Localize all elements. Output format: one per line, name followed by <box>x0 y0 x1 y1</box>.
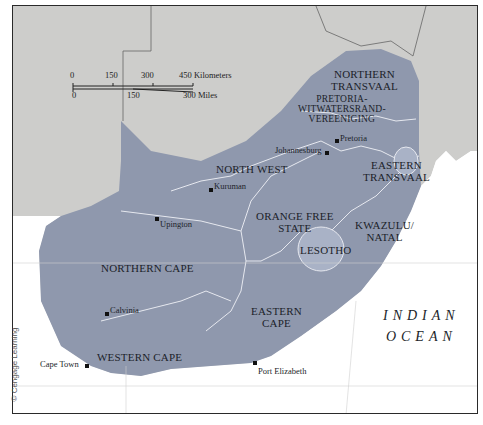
scale-km-300: 300 <box>141 70 154 80</box>
city-pretoria: Pretoria <box>340 134 367 143</box>
city-marker-upington <box>155 217 159 221</box>
city-johannesburg: Johannesburg <box>275 146 322 155</box>
label-north-west: NORTH WEST <box>216 164 288 176</box>
scale-km-150: 150 <box>105 70 118 80</box>
city-cape-town: Cape Town <box>40 360 79 369</box>
scale-mi-150: 150 <box>127 90 140 100</box>
label-eastern-transvaal: EASTERNTRANSVAAL <box>363 160 430 183</box>
city-port-elizabeth: Port Elizabeth <box>258 367 306 376</box>
city-calvinia: Calvinia <box>110 306 139 315</box>
label-lesotho: LESOTHO <box>300 245 352 257</box>
map-canvas <box>13 6 478 414</box>
city-marker-kuruman <box>209 188 213 192</box>
label-northern-transvaal: NORTHERNTRANSVAAL <box>331 69 398 92</box>
label-orange-free-state: ORANGE FREESTATE <box>256 211 334 234</box>
label-eastern-cape: EASTERNCAPE <box>251 306 302 329</box>
city-marker-port-elizabeth <box>253 361 257 365</box>
copyright-credit: © Cengage Learning <box>10 328 19 402</box>
label-northern-cape: NORTHERN CAPE <box>101 263 194 275</box>
city-marker-johannesburg <box>325 151 329 155</box>
city-marker-calvinia <box>105 312 109 316</box>
map-frame: 0 150 300 450 Kilometers 0 150 300 Miles… <box>12 5 478 414</box>
city-marker-cape-town <box>85 364 89 368</box>
scale-km-450: 450 Kilometers <box>179 70 232 80</box>
scale-km-0: 0 <box>70 70 74 80</box>
label-pwv: PRETORIA-WITWATERSRAND-VEREENIGING <box>298 95 386 125</box>
city-marker-pretoria <box>335 139 339 143</box>
label-western-cape: WESTERN CAPE <box>97 352 182 364</box>
label-indian-ocean: INDIANOCEAN <box>383 309 460 344</box>
scale-mi-300: 300 Miles <box>183 90 217 100</box>
label-kwazulu-natal: KWAZULU/NATAL <box>355 220 414 243</box>
city-upington: Upington <box>160 220 192 229</box>
scale-mi-0: 0 <box>72 90 76 100</box>
city-kuruman: Kuruman <box>214 182 246 191</box>
